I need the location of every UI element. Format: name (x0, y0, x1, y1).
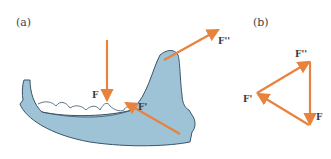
label-F-prime-b: F' (243, 94, 252, 104)
panel-b-label: (b) (253, 16, 269, 29)
label-F-prime-a: F' (138, 102, 147, 112)
force-F-double-prime-arrow (164, 30, 218, 60)
label-F-double-prime-b: F'' (295, 49, 307, 59)
label-F-b: F (316, 112, 323, 122)
triangle-F-prime-arrow (258, 94, 309, 125)
label-F-a: F (92, 90, 99, 100)
force-triangle (257, 62, 310, 125)
figure: (a) F F' F'' (b) F'' F' F (0, 0, 331, 159)
triangle-F-double-prime-arrow (257, 62, 309, 93)
label-F-double-prime-a: F'' (218, 36, 230, 46)
panel-a-label: (a) (16, 16, 31, 29)
